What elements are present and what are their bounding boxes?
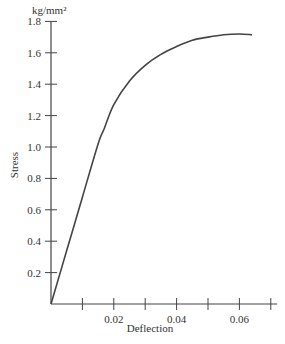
y-tick-label: 1.8 [27,15,41,27]
y-axis-ticks: 0.20.40.60.81.01.21.41.61.8 [27,15,57,278]
y-tick-label: 0.6 [27,204,41,216]
y-tick-label: 1.4 [27,78,41,90]
y-axis-title: Stress [8,152,20,178]
stress-curve [51,34,252,304]
y-tick-label: 0.2 [27,267,41,279]
axes [51,21,277,304]
x-axis-title: Deflection [127,322,174,334]
y-tick-label: 1.6 [27,47,41,59]
x-axis-ticks: 0.020.040.06 [82,298,270,325]
y-tick-label: 0.8 [27,172,41,184]
y-axis-unit: kg/mm² [32,4,67,16]
y-tick-label: 0.4 [27,235,41,247]
x-tick-label: 0.06 [230,313,250,325]
stress-deflection-chart: 0.20.40.60.81.01.21.41.61.8 0.020.040.06… [0,0,285,344]
y-tick-label: 1.0 [27,141,41,153]
y-tick-label: 1.2 [27,110,41,122]
x-tick-label: 0.02 [104,313,123,325]
